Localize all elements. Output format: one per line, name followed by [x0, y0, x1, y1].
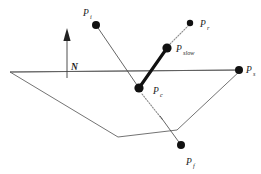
label-pf-base: P: [185, 157, 192, 167]
normal-arrow: [63, 28, 70, 78]
point-pi: [92, 21, 100, 29]
label-pf: P f: [185, 157, 196, 169]
refracted-ray-solid: [160, 116, 181, 145]
label-ps-base: P: [245, 65, 252, 75]
slow-ray: [139, 48, 167, 88]
ray-geometry-figure: P i P r P slow P c P s P f N: [0, 0, 261, 174]
point-pf: [177, 141, 185, 149]
label-pf-sub: f: [193, 162, 196, 169]
label-pc: P c: [152, 86, 163, 98]
label-normal: N: [70, 62, 79, 72]
reflected-ray-dotted: [170, 26, 188, 44]
point-pslow: [162, 43, 171, 52]
diagram-canvas: P i P r P slow P c P s P f N: [0, 0, 261, 174]
label-pi-sub: i: [90, 13, 92, 20]
label-ps-sub: s: [253, 70, 256, 77]
surface-plane: [10, 70, 241, 137]
point-pc: [134, 83, 143, 92]
label-ps: P s: [245, 65, 256, 77]
label-pr-sub: r: [207, 24, 210, 31]
label-pr: P r: [199, 19, 210, 31]
label-pi: P i: [82, 8, 92, 20]
horizon-line: [10, 70, 241, 72]
point-pr: [187, 20, 193, 26]
label-pslow: P slow: [175, 44, 195, 56]
incident-ray: [96, 25, 139, 88]
label-pc-sub: c: [160, 91, 163, 98]
point-ps: [235, 66, 243, 74]
label-pc-base: P: [152, 86, 159, 96]
label-pi-base: P: [82, 8, 89, 18]
label-pslow-base: P: [175, 44, 182, 54]
label-pslow-sub: slow: [183, 49, 195, 56]
label-pr-base: P: [199, 19, 206, 29]
refracted-ray-dotted: [142, 94, 162, 119]
normal-arrow-head: [63, 28, 70, 41]
